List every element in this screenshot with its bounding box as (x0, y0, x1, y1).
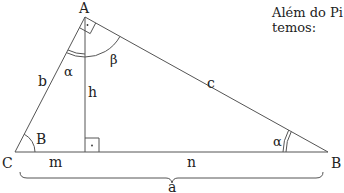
side-label-h: h (88, 84, 97, 100)
angle-arc-C (24, 134, 35, 152)
angle-arc-alpha-A-inner (68, 50, 85, 54)
side-label-a: a (168, 179, 176, 193)
side-b (15, 17, 85, 152)
side-label-b: b (38, 73, 47, 89)
side-text-line2: temos: (272, 20, 343, 35)
side-label-c: c (207, 75, 215, 91)
side-text: Além do Pi temos: (272, 0, 343, 35)
angle-label-C: B (36, 131, 46, 147)
angle-label-beta-A: β (110, 52, 118, 67)
side-label-n: n (187, 154, 196, 170)
side-label-m: m (49, 154, 62, 170)
vertex-label-B: B (331, 155, 341, 171)
right-angle-dot-A (87, 24, 89, 26)
vertex-label-C: C (2, 155, 13, 171)
angle-label-alpha-A: α (64, 64, 73, 79)
vertex-label-A: A (78, 0, 90, 16)
angle-label-alpha-B: α (273, 134, 282, 149)
right-angle-dot-foot (91, 145, 93, 147)
side-text-line1: Além do Pi (272, 5, 343, 20)
